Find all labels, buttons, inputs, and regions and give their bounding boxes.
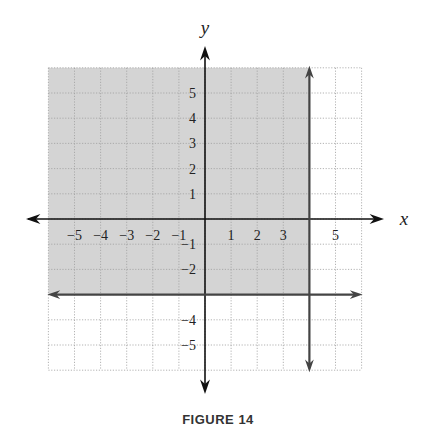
y-tick-label: −5 bbox=[181, 338, 196, 353]
x-tick-label: −4 bbox=[93, 228, 108, 243]
x-tick-label: 1 bbox=[228, 228, 235, 243]
y-tick-label: −2 bbox=[181, 262, 196, 277]
y-tick-label: 2 bbox=[189, 162, 196, 177]
x-tick-label: 2 bbox=[254, 228, 261, 243]
x-axis-label: x bbox=[399, 208, 409, 229]
y-tick-label: 4 bbox=[189, 111, 196, 126]
y-tick-label: 5 bbox=[189, 86, 196, 101]
x-tick-label: 3 bbox=[280, 228, 287, 243]
x-tick-label: 5 bbox=[332, 228, 339, 243]
x-tick-label: −3 bbox=[119, 228, 134, 243]
y-tick-label: −4 bbox=[181, 313, 196, 328]
x-tick-label: −5 bbox=[67, 228, 82, 243]
y-tick-label: −1 bbox=[181, 237, 196, 252]
y-axis-label: y bbox=[199, 17, 210, 38]
coordinate-plane: −5−4−3−2−1123554321−1−2−4−5xy bbox=[0, 0, 436, 443]
figure-caption: FIGURE 14 bbox=[0, 412, 436, 427]
x-tick-label: −2 bbox=[145, 228, 160, 243]
y-tick-label: 1 bbox=[189, 187, 196, 202]
y-tick-label: 3 bbox=[189, 136, 196, 151]
